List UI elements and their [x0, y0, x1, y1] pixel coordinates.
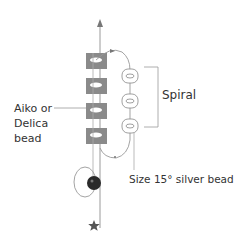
- anchor-bead: [87, 176, 101, 190]
- arrow-up-icon: [97, 19, 103, 27]
- core-bead: [86, 103, 107, 119]
- core-bead-label-line1: Aiko or: [14, 101, 52, 116]
- spiral-label: Spiral: [162, 88, 196, 103]
- spiral-bracket: [144, 67, 158, 127]
- core-bead: [86, 78, 107, 94]
- thread-arrow-icon: [110, 49, 115, 53]
- silver-bead: [122, 119, 138, 133]
- core-bead-label-line3: bead: [14, 131, 41, 146]
- core-bead: [86, 53, 107, 69]
- core-bead-label-line2: Delica: [14, 116, 48, 131]
- thread-dot: [114, 156, 116, 158]
- silver-bead: [122, 69, 138, 83]
- silver-bead-label: Size 15° silver bead: [129, 172, 234, 187]
- star-icon: [88, 220, 100, 231]
- anchor-bead-highlight: [91, 180, 94, 183]
- silver-bead: [122, 94, 138, 108]
- core-bead: [86, 128, 107, 144]
